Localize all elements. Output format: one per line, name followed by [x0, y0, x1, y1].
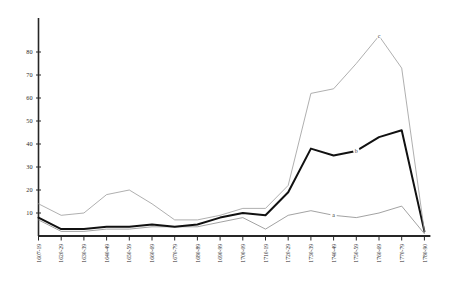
y-tick-label: 10	[26, 209, 32, 216]
chart-canvas: 1020304050607080 abc 1607-191620-291630-…	[0, 0, 465, 294]
x-tick-label: 1700-09	[240, 244, 246, 263]
series-line-b	[39, 130, 425, 231]
y-tick-label: 50	[26, 117, 32, 124]
series-line-a	[39, 206, 425, 234]
x-tick-label: 1720-29	[285, 244, 291, 263]
y-tick-label: 40	[26, 140, 32, 147]
x-tick-label-group: 1607-191620-291630-391640-491650-591660-…	[36, 244, 428, 263]
x-tick-label: 1670-79	[172, 244, 178, 263]
series-label-a: a	[332, 212, 335, 218]
x-tick-label: 1607-19	[36, 244, 42, 263]
y-axis: 1020304050607080	[26, 18, 41, 236]
x-tick-label: 1740-49	[331, 244, 337, 263]
x-axis	[39, 236, 431, 241]
series-label-b: b	[355, 148, 358, 154]
y-tick-label: 70	[26, 71, 32, 78]
series-label-c: c	[378, 33, 381, 39]
y-tick-label: 30	[26, 163, 32, 170]
x-tick-label: 1750-59	[353, 244, 359, 263]
x-tick-label: 1630-39	[81, 244, 87, 263]
y-tick-label: 80	[26, 48, 32, 55]
x-tick-label: 1640-49	[104, 244, 110, 263]
x-tick-label: 1710-19	[263, 244, 269, 263]
x-tick-label: 1730-39	[308, 244, 314, 263]
series-line-c	[39, 36, 425, 232]
x-tick-label: 1660-69	[149, 244, 155, 263]
data-series-group	[39, 36, 425, 234]
y-tick-label: 20	[26, 186, 32, 193]
line-chart: 1020304050607080 abc 1607-191620-291630-…	[0, 0, 465, 294]
x-tick-label: 1650-59	[126, 244, 132, 263]
series-label-group: abc	[330, 32, 382, 218]
x-tick-label: 1680-89	[195, 244, 201, 263]
x-tick-label: 1620-29	[58, 244, 64, 263]
y-tick-label: 60	[26, 94, 32, 101]
x-tick-label: 1780-90	[422, 244, 428, 263]
x-tick-label: 1760-69	[376, 244, 382, 263]
x-tick-label: 1690-99	[217, 244, 223, 263]
x-tick-label: 1770-79	[399, 244, 405, 263]
